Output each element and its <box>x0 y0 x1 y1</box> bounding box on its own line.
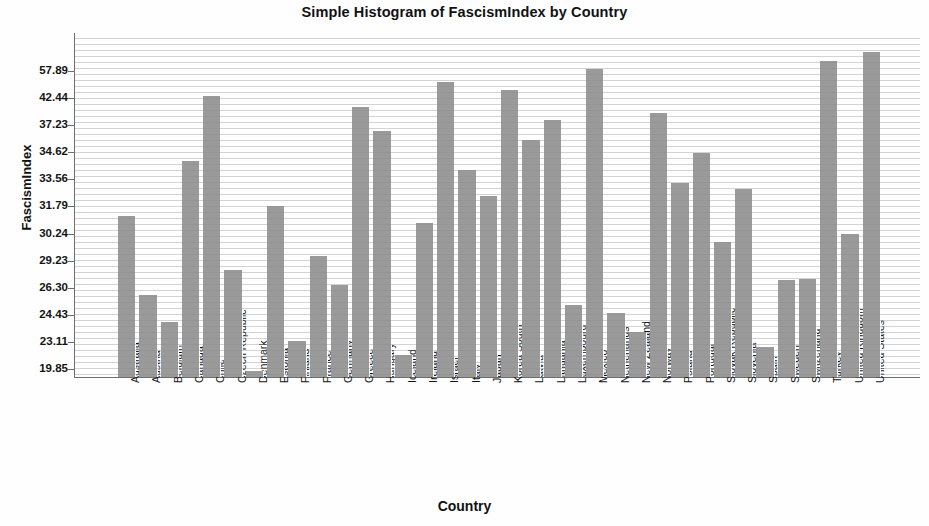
chart-title: Simple Histogram of FascismIndex by Coun… <box>0 4 929 20</box>
bar[interactable] <box>182 161 200 378</box>
y-tick-label: 57.89 <box>8 65 68 76</box>
bar[interactable] <box>501 90 519 378</box>
bar[interactable] <box>480 196 498 378</box>
y-tick-label: 33.56 <box>8 173 68 184</box>
bar-series <box>75 33 920 378</box>
bar[interactable] <box>139 295 157 378</box>
bar[interactable] <box>118 216 136 378</box>
bar[interactable] <box>735 189 753 378</box>
bar[interactable] <box>161 322 179 378</box>
bar[interactable] <box>458 170 476 378</box>
y-tick-label: 23.11 <box>8 336 68 347</box>
bar[interactable] <box>607 313 625 378</box>
y-tick-label: 34.62 <box>8 146 68 157</box>
bar[interactable] <box>799 279 817 378</box>
plot-area <box>74 33 920 378</box>
y-tick-label: 26.30 <box>8 282 68 293</box>
bar[interactable] <box>522 140 540 378</box>
y-tick-label: 19.85 <box>8 363 68 374</box>
y-tick-label: 30.24 <box>8 228 68 239</box>
bar[interactable] <box>310 256 328 378</box>
y-tick-label: 31.79 <box>8 200 68 211</box>
bar[interactable] <box>288 341 306 378</box>
bar[interactable] <box>416 223 434 378</box>
bar[interactable] <box>331 285 349 378</box>
bar[interactable] <box>203 96 221 378</box>
bar[interactable] <box>841 234 859 378</box>
bar[interactable] <box>714 242 732 378</box>
y-tick-label: 29.23 <box>8 255 68 266</box>
bar[interactable] <box>671 183 689 378</box>
bar[interactable] <box>756 347 774 378</box>
bar[interactable] <box>246 371 264 378</box>
bar[interactable] <box>820 61 838 378</box>
x-axis-title: Country <box>0 498 929 514</box>
bar[interactable] <box>778 280 796 378</box>
y-tick-label: 37.23 <box>8 119 68 130</box>
bar[interactable] <box>629 332 647 378</box>
bar[interactable] <box>544 120 562 378</box>
bar[interactable] <box>373 131 391 378</box>
y-tick-label: 24.43 <box>8 309 68 320</box>
chart-page: Simple Histogram of FascismIndex by Coun… <box>0 0 929 526</box>
bar[interactable] <box>437 82 455 378</box>
bar[interactable] <box>352 107 370 378</box>
bar[interactable] <box>650 113 668 378</box>
bar[interactable] <box>863 52 881 378</box>
y-tick-label: 42.44 <box>8 92 68 103</box>
bar[interactable] <box>693 153 711 378</box>
bar[interactable] <box>224 270 242 378</box>
bar[interactable] <box>565 305 583 378</box>
bar[interactable] <box>586 69 604 378</box>
bar[interactable] <box>267 206 285 378</box>
bar[interactable] <box>395 355 413 378</box>
